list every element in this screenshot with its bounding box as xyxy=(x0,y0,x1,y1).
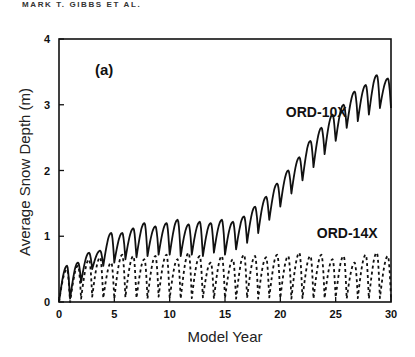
series-label-ord-10x: ORD-10X xyxy=(286,104,347,120)
x-tick-label: 0 xyxy=(56,308,62,320)
y-axis-label: Average Snow Depth (m) xyxy=(16,88,33,256)
x-tick-label: 30 xyxy=(385,308,397,320)
plot-border xyxy=(59,39,391,302)
series-line-ord-14x xyxy=(59,253,391,302)
x-tick-label: 20 xyxy=(274,308,286,320)
panel-label: (a) xyxy=(95,61,113,78)
x-tick-label: 10 xyxy=(164,308,176,320)
x-tick-label: 25 xyxy=(330,308,342,320)
snow-depth-chart: 05101520253001234 (a) ORD-10X ORD-14X Mo… xyxy=(0,0,415,357)
x-axis-label: Model Year xyxy=(187,328,262,345)
x-tick-label: 5 xyxy=(111,308,117,320)
y-tick-label: 0 xyxy=(44,296,50,308)
y-tick-label: 2 xyxy=(44,165,50,177)
plot-frame xyxy=(59,39,391,302)
y-tick-label: 1 xyxy=(44,230,50,242)
y-tick-label: 4 xyxy=(44,33,51,45)
y-tick-label: 3 xyxy=(44,99,50,111)
series-label-ord-14x: ORD-14X xyxy=(317,225,378,241)
x-tick-label: 15 xyxy=(219,308,231,320)
